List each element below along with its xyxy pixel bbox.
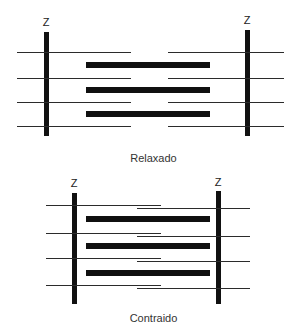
z-line-left-relaxed	[44, 32, 49, 136]
z-line-right-relaxed	[245, 30, 250, 136]
thin-filament	[168, 78, 284, 79]
z-line-left-contracted	[72, 193, 77, 304]
thin-filament	[17, 102, 131, 103]
z-label-left-contracted: Z	[67, 178, 81, 189]
thin-filament	[168, 52, 284, 53]
thin-filament	[137, 208, 250, 209]
z-label-right-relaxed: Z	[240, 15, 254, 26]
thin-filament	[17, 78, 131, 79]
thick-filament	[86, 111, 210, 117]
thick-filament	[86, 270, 210, 276]
contracted-sarcomere-figure: Z Z Contraido	[0, 172, 307, 329]
z-label-left-relaxed: Z	[39, 17, 53, 28]
caption-relaxed: Relaxado	[0, 152, 307, 165]
thin-filament	[137, 236, 250, 237]
thick-filament	[86, 62, 210, 68]
thin-filament	[46, 258, 161, 259]
thin-filament	[137, 288, 250, 289]
contracted-sarcomere-diagram: Z Z	[0, 172, 307, 329]
relaxed-sarcomere-figure: Z Z Relaxado	[0, 0, 307, 172]
thick-filament	[86, 216, 210, 222]
thin-filament	[137, 261, 250, 262]
thin-filament	[168, 126, 284, 127]
thin-filament	[46, 233, 161, 234]
thin-filament	[46, 285, 161, 286]
thick-filament	[86, 87, 210, 93]
z-label-right-contracted: Z	[211, 177, 225, 188]
relaxed-sarcomere-diagram: Z Z	[0, 0, 307, 172]
thin-filament	[17, 126, 131, 127]
thin-filament	[17, 52, 131, 53]
thin-filament	[168, 102, 284, 103]
thin-filament	[46, 205, 161, 206]
caption-contracted: Contraido	[0, 312, 307, 325]
thick-filament	[86, 243, 210, 249]
